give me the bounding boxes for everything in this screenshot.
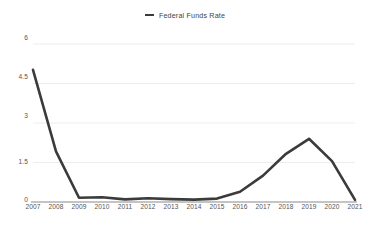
- gridlines: [33, 44, 355, 163]
- y-axis-tick-label: 4.5: [6, 73, 28, 80]
- y-axis-tick-label: 0: [6, 196, 28, 203]
- data-series-group: [33, 70, 355, 200]
- y-axis-tick-label: 6: [6, 34, 28, 41]
- chart-container: Federal Funds Rate 6 4.5 3 1.5 0 2007200…: [0, 0, 370, 226]
- y-axis-tick-label: 3: [6, 112, 28, 119]
- chart-svg: [33, 44, 355, 202]
- x-axis-tick-label: 2021: [342, 203, 368, 211]
- plot-area: [33, 44, 355, 202]
- y-axis: 6 4.5 3 1.5 0: [0, 0, 28, 226]
- data-line: [33, 70, 355, 200]
- chart-legend: Federal Funds Rate: [0, 8, 370, 22]
- legend-line-swatch-icon: [145, 14, 154, 16]
- legend-item-label: Federal Funds Rate: [159, 11, 225, 20]
- y-axis-tick-label: 1.5: [6, 158, 28, 165]
- x-axis: 2007200820092010201120122013201420152016…: [33, 203, 355, 215]
